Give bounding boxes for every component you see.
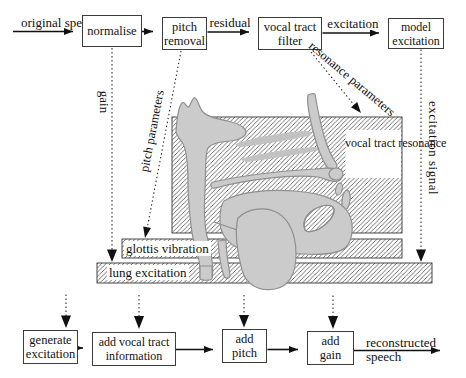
add-vocal-tract-information-box: add vocal tract information xyxy=(92,332,176,366)
glottis-vibration-label: glottis vibration xyxy=(124,241,211,256)
add-gain-line2: gain xyxy=(320,348,342,362)
model-excitation-line2: excitation xyxy=(392,34,439,48)
add-vocal-tract-line1: add vocal tract xyxy=(99,335,170,349)
generate-excitation-line1: generate xyxy=(29,333,71,347)
pitch-removal-box: pitch removal xyxy=(162,17,207,50)
generate-excitation-line2: excitation xyxy=(26,347,75,361)
vocal-tract-resonance-label: vocal tract resonance xyxy=(345,138,401,150)
input-label: original speech xyxy=(21,16,67,30)
vtr-line1: vocal xyxy=(345,136,371,150)
residual-label: residual xyxy=(204,16,256,30)
lung-excitation-label: lung excitation xyxy=(107,265,189,280)
add-vocal-tract-line2: information xyxy=(106,349,163,363)
normalise-box-label: normalise xyxy=(87,24,136,38)
generate-excitation-box: generate excitation xyxy=(23,330,78,364)
vtr-line3: resonance xyxy=(398,136,446,150)
normalise-box: normalise xyxy=(82,15,142,47)
vocoder-diagram-page: { "diagram": { "top_flow": { "input_line… xyxy=(0,0,466,378)
gain-label: gain xyxy=(97,91,111,113)
excitation-label: excitation xyxy=(322,17,384,31)
vocal-tract-filter-line1: vocal tract xyxy=(264,20,316,34)
output-label-line2: speech xyxy=(366,350,448,364)
diagram-canvas xyxy=(0,0,466,378)
output-label-line1: reconstructed xyxy=(366,336,448,350)
pitch-removal-line2: removal xyxy=(164,34,205,48)
model-excitation-box: model excitation xyxy=(388,18,444,49)
output-label: reconstructed speech xyxy=(366,336,448,363)
add-pitch-line1: add xyxy=(235,332,253,346)
vocal-tract-filter-line2: filter xyxy=(278,34,302,48)
pitch-removal-line1: pitch xyxy=(172,20,197,34)
model-excitation-line1: model xyxy=(401,20,431,34)
add-gain-box: add gain xyxy=(307,331,354,365)
add-pitch-box: add pitch xyxy=(222,329,267,363)
input-label-line1: original xyxy=(21,15,61,30)
add-gain-line1: add xyxy=(321,334,339,348)
vtr-line2: tract xyxy=(374,136,395,150)
add-pitch-line2: pitch xyxy=(232,346,257,360)
